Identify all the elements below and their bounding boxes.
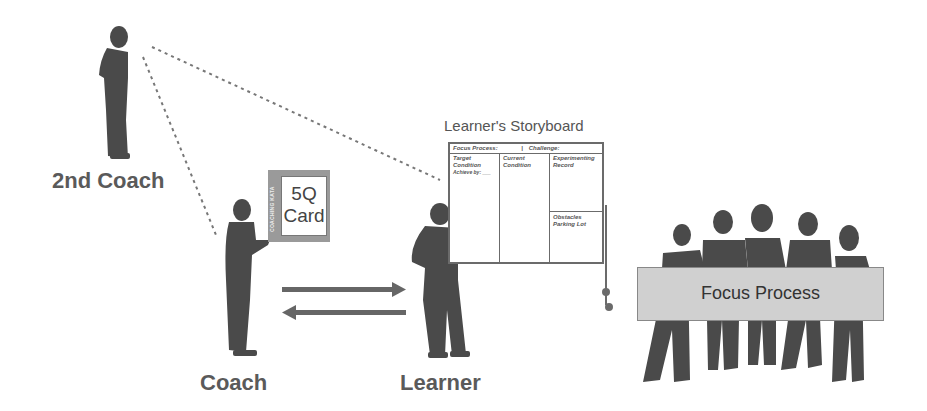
label-second-coach: 2nd Coach: [52, 168, 164, 194]
card-face: 5Q Card: [281, 176, 327, 236]
storyboard-header: Focus Process: | Challenge:: [450, 144, 602, 154]
header-focus-process: Focus Process:: [453, 145, 498, 151]
card-title-line2: Card: [282, 205, 326, 226]
current-line2: Condition: [503, 162, 546, 169]
storyboard-stand: [603, 205, 612, 310]
storyboard-title: Learner's Storyboard: [444, 117, 584, 134]
experimenting-line1: Experimenting: [553, 155, 599, 162]
column-experimenting-record: Experimenting Record: [550, 154, 602, 212]
column-obstacles-parking-lot: Obstacles Parking Lot: [550, 213, 602, 262]
label-learner: Learner: [400, 370, 481, 396]
second-coach-silhouette: [99, 26, 130, 159]
target-line2: Condition: [453, 162, 496, 169]
obstacles-line1: Obstacles: [553, 214, 599, 221]
focus-process-label: Focus Process: [638, 283, 883, 304]
arrow-right: [282, 282, 406, 297]
experimenting-line2: Record: [553, 162, 599, 169]
card-title-line1: 5Q: [282, 183, 326, 204]
current-line1: Current: [503, 155, 546, 162]
five-q-card: COACHING KATA 5Q Card: [268, 170, 330, 242]
card-side-label: COACHING KATA: [269, 186, 275, 232]
header-challenge: Challenge:: [529, 145, 560, 151]
arrow-left: [282, 305, 406, 320]
focus-process-banner: Focus Process: [637, 267, 884, 321]
column-current-condition: Current Condition: [500, 154, 550, 262]
label-coach: Coach: [200, 370, 267, 396]
column-target-condition: Target Condition Achieve by: ___: [450, 154, 500, 262]
target-line1: Target: [453, 155, 496, 162]
header-separator: |: [521, 145, 523, 151]
obstacles-line2: Parking Lot: [553, 221, 599, 228]
coach-silhouette: [225, 199, 270, 356]
target-achieve-by: Achieve by: ___: [453, 169, 496, 176]
storyboard: Focus Process: | Challenge: Target Condi…: [448, 142, 604, 264]
